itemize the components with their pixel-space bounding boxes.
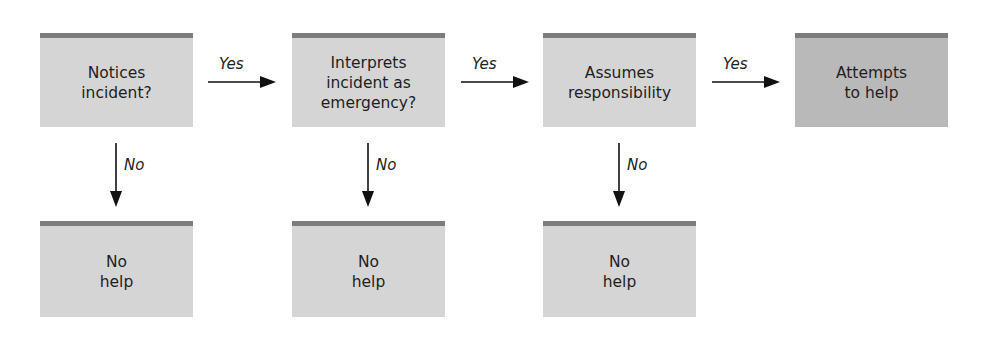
- no-label: No: [124, 156, 144, 174]
- step-label: Notices incident?: [81, 63, 151, 103]
- outcome-label: No help: [603, 252, 637, 292]
- yes-label: Yes: [723, 55, 748, 73]
- step-label: Interprets incident as emergency?: [321, 53, 416, 113]
- outcome-label: No help: [100, 252, 134, 292]
- yes-label: Yes: [219, 55, 244, 73]
- no-arrow-icon: [108, 143, 124, 209]
- step-notices-incident: Notices incident?: [40, 33, 193, 127]
- outcome-no-help: No help: [543, 221, 696, 317]
- yes-arrow-icon: [208, 74, 278, 90]
- no-label: No: [627, 156, 647, 174]
- yes-label: Yes: [472, 55, 497, 73]
- outcome-label: No help: [352, 252, 386, 292]
- no-arrow-icon: [360, 143, 376, 209]
- outcome-no-help: No help: [40, 221, 193, 317]
- no-arrow-icon: [611, 143, 627, 209]
- outcome-no-help: No help: [292, 221, 445, 317]
- step-label: Attempts to help: [836, 63, 907, 103]
- yes-arrow-icon: [712, 74, 782, 90]
- step-assumes-responsibility: Assumes responsibility: [543, 33, 696, 127]
- yes-arrow-icon: [461, 74, 531, 90]
- no-label: No: [376, 156, 396, 174]
- step-interprets-emergency: Interprets incident as emergency?: [292, 33, 445, 127]
- step-attempts-to-help: Attempts to help: [795, 33, 948, 127]
- step-label: Assumes responsibility: [568, 63, 671, 103]
